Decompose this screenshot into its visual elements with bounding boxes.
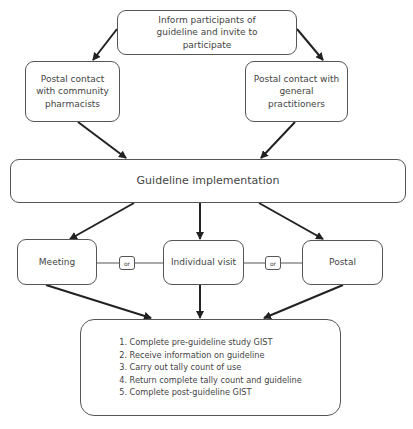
step-item: 2. Receive information on guideline xyxy=(119,349,302,362)
node-implementation-label: Guideline implementation xyxy=(137,175,280,188)
or-badge-right-label: or xyxy=(270,260,276,267)
node-individual-visit-label: Individual visit xyxy=(171,256,236,269)
step-item: 3. Carry out tally count of use xyxy=(119,361,302,374)
node-inform-label: Inform participants of guideline and inv… xyxy=(137,14,277,52)
node-postal: Postal xyxy=(302,240,383,285)
arrow-meeting-to-steps xyxy=(46,285,151,318)
or-badge-left: or xyxy=(119,256,135,270)
node-pharmacists-label: Postal contact with community pharmacist… xyxy=(32,73,114,111)
step-item: 4. Return complete tally count and guide… xyxy=(119,374,302,387)
arrow-impl-to-meeting xyxy=(70,203,134,239)
arrow-pharmacists-to-impl xyxy=(78,122,126,158)
or-badge-right: or xyxy=(265,256,281,270)
steps-list: 1. Complete pre-guideline study GIST 2. … xyxy=(119,336,302,399)
node-inform: Inform participants of guideline and inv… xyxy=(117,10,297,55)
node-gps: Postal contact with general practitioner… xyxy=(245,61,348,122)
step-item: 1. Complete pre-guideline study GIST xyxy=(119,336,302,349)
arrow-postal-to-steps xyxy=(264,285,343,318)
node-meeting: Meeting xyxy=(17,239,97,285)
arrow-gps-to-impl xyxy=(261,122,295,158)
node-pharmacists: Postal contact with community pharmacist… xyxy=(25,61,120,122)
node-postal-label: Postal xyxy=(329,256,356,269)
node-steps: 1. Complete pre-guideline study GIST 2. … xyxy=(80,319,341,416)
arrow-impl-to-postal xyxy=(259,203,323,239)
arrow-inform-to-gps xyxy=(297,29,323,60)
arrow-inform-to-pharmacists xyxy=(93,29,117,60)
or-badge-left-label: or xyxy=(124,260,130,267)
node-implementation: Guideline implementation xyxy=(10,159,406,203)
node-individual-visit: Individual visit xyxy=(163,240,244,285)
node-gps-label: Postal contact with general practitioner… xyxy=(253,73,341,111)
node-meeting-label: Meeting xyxy=(39,256,75,269)
step-item: 5. Complete post-guideline GIST xyxy=(119,386,302,399)
